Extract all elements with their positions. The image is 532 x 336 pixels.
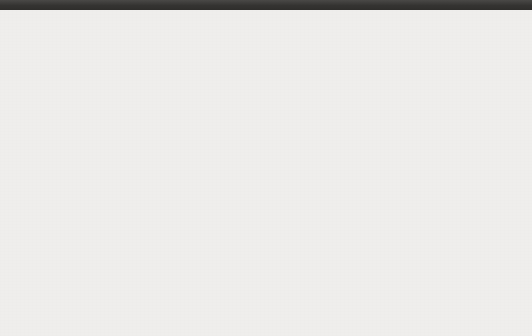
figure [0, 10, 532, 336]
plot-area [0, 10, 390, 310]
x-axis-ticks [0, 287, 390, 307]
line-chart-svg [0, 10, 390, 310]
cropped-header-band [0, 0, 532, 10]
legend [392, 14, 532, 304]
y-axis-ticks [14, 10, 48, 310]
